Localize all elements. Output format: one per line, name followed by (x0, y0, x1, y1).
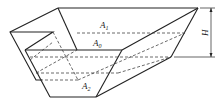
inner-diagonal-1 (36, 50, 77, 73)
height-arrow-bottom (210, 53, 213, 57)
label-a0: A0 (92, 38, 102, 49)
hopper-diagram: A1 A0 A2 H (0, 0, 222, 106)
label-height: H (200, 29, 210, 37)
left-back-vertical (58, 8, 77, 50)
height-arrow-top (210, 8, 213, 12)
label-a1: A1 (99, 20, 109, 31)
label-a2: A2 (81, 81, 91, 92)
